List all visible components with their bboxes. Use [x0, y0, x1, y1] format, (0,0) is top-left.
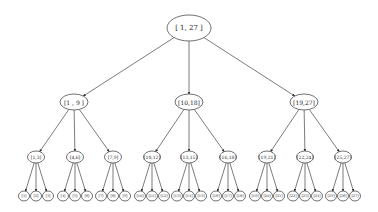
- node-label: [1 , 9 ]: [64, 99, 84, 106]
- node-leaf: [26]: [338, 191, 349, 201]
- node-label: [16]: [212, 194, 220, 198]
- node-leaf: [17]: [223, 191, 234, 201]
- node-leaf: [24]: [312, 191, 323, 201]
- tree-edge: [178, 163, 187, 191]
- range-tree-diagram: [ 1, 27 ][1 , 9 ][10,18][19,27][1,3][4,6…: [0, 0, 378, 212]
- node-label: [7,9]: [108, 155, 119, 160]
- node-leaf: [5]: [70, 191, 81, 201]
- node-label: [16,18]: [220, 155, 237, 160]
- tree-edge: [156, 109, 184, 151]
- tree-edge: [217, 163, 226, 191]
- node-leaf: [2]: [31, 191, 42, 201]
- node-leaf: [7]: [96, 191, 107, 201]
- node-label: [27]: [351, 194, 359, 198]
- node-label: [23]: [301, 194, 309, 198]
- node-leaf: [25]: [326, 191, 337, 201]
- tree-edge: [191, 163, 200, 191]
- tree-edge: [79, 109, 109, 151]
- tree-edge: [309, 109, 339, 151]
- node-root: [ 1, 27 ]: [167, 15, 211, 41]
- node-level2: [19,21]: [259, 151, 276, 163]
- tree-edge: [304, 110, 305, 151]
- node-leaf: [13]: [172, 191, 183, 201]
- node-label: [12]: [160, 194, 168, 198]
- node-leaf: [11]: [147, 191, 158, 201]
- node-label: [8]: [111, 194, 117, 198]
- node-leaf: [6]: [82, 191, 93, 201]
- node-label: [10]: [136, 194, 144, 198]
- node-label: [18]: [236, 194, 244, 198]
- tree-edge: [25, 163, 34, 191]
- node-leaf: [27]: [350, 191, 361, 201]
- tree-edge: [40, 109, 69, 151]
- node-leaf: [3]: [43, 191, 54, 201]
- tree-edge: [332, 163, 341, 191]
- node-level2: [7,9]: [105, 151, 122, 163]
- node-label: [7]: [99, 194, 105, 198]
- node-label: [2]: [34, 194, 40, 198]
- tree-edge: [204, 38, 295, 96]
- tree-edge: [115, 163, 124, 191]
- node-leaf: [9]: [120, 191, 131, 201]
- tree-edge: [271, 109, 299, 151]
- node-label: [14]: [185, 194, 193, 198]
- node-label: [1]: [22, 194, 28, 198]
- node-leaf: [16]: [211, 191, 222, 201]
- node-level2: [13,15]: [181, 151, 198, 163]
- node-label: [19,27]: [293, 99, 315, 106]
- tree-edge: [294, 163, 303, 191]
- node-leaf: [19]: [250, 191, 261, 201]
- node-label: [21]: [275, 194, 283, 198]
- tree-edge: [307, 163, 316, 191]
- tree-edges: [25, 38, 353, 192]
- node-label: [1,3]: [31, 155, 42, 160]
- node-leaf: [12]: [159, 191, 170, 201]
- node-leaf: [1]: [19, 191, 30, 201]
- node-leaf: [22]: [288, 191, 299, 201]
- tree-edge: [141, 163, 150, 191]
- node-label: [6]: [85, 194, 91, 198]
- node-label: [13,15]: [181, 155, 198, 160]
- node-level1: [10,18]: [175, 94, 203, 110]
- node-label: [24]: [313, 194, 321, 198]
- node-label: [22,24]: [297, 155, 314, 160]
- tree-edge: [77, 163, 86, 191]
- node-level1: [19,27]: [290, 94, 318, 110]
- node-level2: [4,6]: [67, 151, 84, 163]
- tree-edge: [83, 38, 174, 96]
- node-label: [25,27]: [335, 155, 352, 160]
- node-label: [17]: [224, 194, 232, 198]
- node-label: [15]: [197, 194, 205, 198]
- tree-edge: [230, 163, 239, 191]
- tree-edge: [102, 163, 111, 191]
- node-level2: [1,3]: [28, 151, 45, 163]
- tree-edge: [345, 163, 354, 191]
- tree-edge: [154, 163, 163, 191]
- node-level2: [22,24]: [297, 151, 314, 163]
- node-label: [5]: [73, 194, 79, 198]
- node-leaf: [20]: [262, 191, 273, 201]
- node-level1: [1 , 9 ]: [60, 94, 88, 110]
- node-label: [ 1, 27 ]: [175, 24, 203, 32]
- node-label: [4,6]: [70, 155, 81, 160]
- node-label: [25]: [327, 194, 335, 198]
- node-label: [22]: [289, 194, 297, 198]
- node-label: [19,21]: [259, 155, 276, 160]
- node-leaf: [10]: [135, 191, 146, 201]
- node-label: [10,18]: [178, 99, 200, 106]
- node-leaf: [18]: [235, 191, 246, 201]
- tree-edge: [64, 163, 73, 191]
- node-leaf: [14]: [184, 191, 195, 201]
- tree-edge: [74, 110, 75, 151]
- node-leaf: [8]: [108, 191, 119, 201]
- node-leaf: [21]: [274, 191, 285, 201]
- node-label: [19]: [251, 194, 259, 198]
- node-label: [10,12]: [144, 155, 161, 160]
- node-leaf: [15]: [196, 191, 207, 201]
- node-level2: [25,27]: [335, 151, 352, 163]
- tree-edge: [194, 109, 224, 151]
- tree-edge: [256, 163, 265, 191]
- node-leaf: [4]: [58, 191, 69, 201]
- node-label: [3]: [46, 194, 52, 198]
- node-label: [26]: [339, 194, 347, 198]
